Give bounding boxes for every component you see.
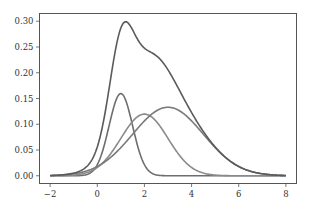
y-axis: 0.000.050.100.150.200.250.30	[15, 16, 40, 181]
axes-frame	[40, 14, 297, 184]
y-tick-label: 0.25	[15, 42, 34, 52]
component-3-line	[50, 107, 286, 175]
y-tick-label: 0.30	[15, 16, 34, 26]
x-tick-label: 6	[236, 189, 241, 199]
x-tick-label: −2	[44, 189, 57, 199]
y-tick-label: 0.00	[15, 171, 34, 181]
x-tick-label: 8	[283, 189, 288, 199]
x-axis: −202468	[44, 184, 289, 199]
chart: 0.000.050.100.150.200.250.30 −202468	[0, 0, 310, 214]
plot-lines	[50, 22, 286, 176]
y-tick-label: 0.20	[15, 68, 34, 78]
y-tick-label: 0.15	[15, 94, 34, 104]
x-tick-label: 0	[95, 189, 100, 199]
y-tick-label: 0.05	[15, 145, 34, 155]
component-1-line	[50, 94, 286, 176]
y-tick-label: 0.10	[15, 119, 34, 129]
component-2-line	[50, 114, 286, 176]
x-tick-label: 4	[189, 189, 194, 199]
mixture-sum-line	[50, 22, 286, 176]
x-tick-label: 2	[142, 189, 147, 199]
